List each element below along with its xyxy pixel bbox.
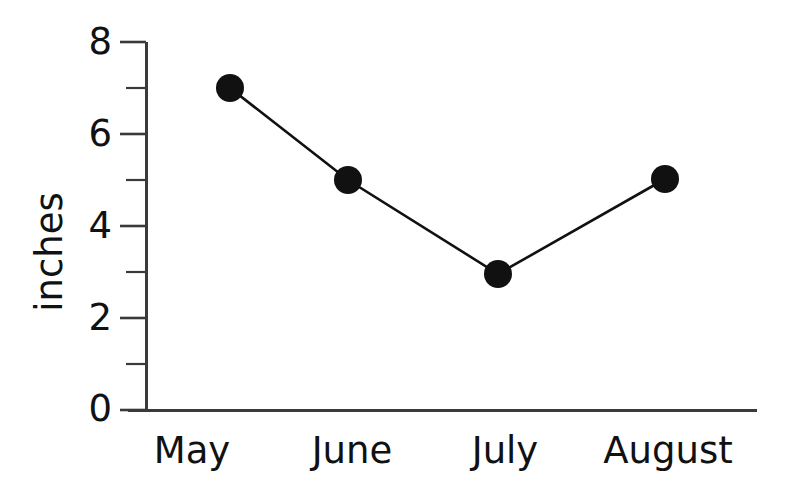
y-tick-label-6: 6 — [88, 112, 112, 155]
x-tick-label-july: July — [470, 429, 539, 472]
y-tick-label-4: 4 — [88, 204, 112, 247]
line-chart: 8 6 4 2 0 inches May June July August — [0, 0, 787, 492]
y-axis-title: inches — [28, 192, 71, 312]
chart-page: 8 6 4 2 0 inches May June July August — [0, 0, 787, 492]
x-tick-label-may: May — [154, 429, 231, 472]
data-point-june[interactable] — [334, 166, 362, 194]
x-tick-label-august: August — [603, 429, 732, 472]
chart-background — [0, 0, 787, 492]
data-point-may[interactable] — [216, 74, 244, 102]
data-point-july[interactable] — [484, 260, 512, 288]
x-tick-label-june: June — [310, 429, 393, 472]
data-point-august[interactable] — [651, 165, 679, 193]
y-tick-label-2: 2 — [88, 296, 112, 339]
y-tick-label-0: 0 — [88, 387, 112, 430]
y-tick-label-8: 8 — [88, 20, 112, 63]
